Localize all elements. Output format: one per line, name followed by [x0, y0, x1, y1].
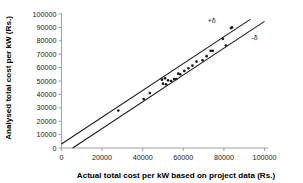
data-point [164, 77, 167, 80]
data-point [179, 73, 182, 76]
data-point [183, 70, 186, 73]
y-tick-label: 0 [53, 144, 57, 153]
y-tick-label: 60000 [37, 63, 57, 72]
data-point [148, 92, 151, 95]
y-tick-label: 30000 [37, 103, 57, 112]
data-point [175, 78, 178, 81]
x-tick-label: 80000 [214, 153, 234, 162]
data-point [170, 80, 173, 83]
data-point [117, 109, 120, 112]
data-point [211, 50, 214, 53]
data-point [231, 26, 234, 29]
data-point [205, 55, 208, 58]
y-tick-label: 20000 [37, 117, 57, 126]
y-tick-label: 40000 [37, 90, 57, 99]
data-point [162, 82, 165, 85]
upper-bound-label: +δ [208, 17, 216, 24]
lower-bound-label: -δ [251, 34, 257, 41]
y-tick-label: 80000 [37, 36, 57, 45]
data-point [195, 60, 198, 63]
data-point [222, 37, 225, 40]
data-point [167, 79, 170, 82]
x-axis-title: Actual total cost per kW based on projec… [77, 171, 276, 180]
scatter-chart: 0100002000030000400005000060000700008000… [0, 0, 303, 183]
x-tick-label: 60000 [173, 153, 193, 162]
data-point [187, 67, 190, 70]
y-tick-label: 90000 [37, 23, 57, 32]
data-point [201, 59, 204, 62]
y-tick-label: 70000 [37, 50, 57, 59]
y-axis-title: Analysed total cost per kW (Rs.) [4, 16, 13, 140]
data-point [161, 78, 164, 81]
y-tick-label: 50000 [37, 77, 57, 86]
y-tick-label: 10000 [37, 130, 57, 139]
chart-canvas: 0100002000030000400005000060000700008000… [0, 0, 303, 183]
x-tick-label: 40000 [133, 153, 153, 162]
data-point [142, 98, 145, 101]
x-tick-label: 0 [60, 153, 64, 162]
x-tick-label: 100000 [253, 153, 277, 162]
data-point [165, 83, 168, 86]
y-tick-label: 100000 [33, 10, 57, 19]
data-point [225, 44, 228, 47]
data-point [191, 64, 194, 67]
x-tick-label: 20000 [92, 153, 112, 162]
